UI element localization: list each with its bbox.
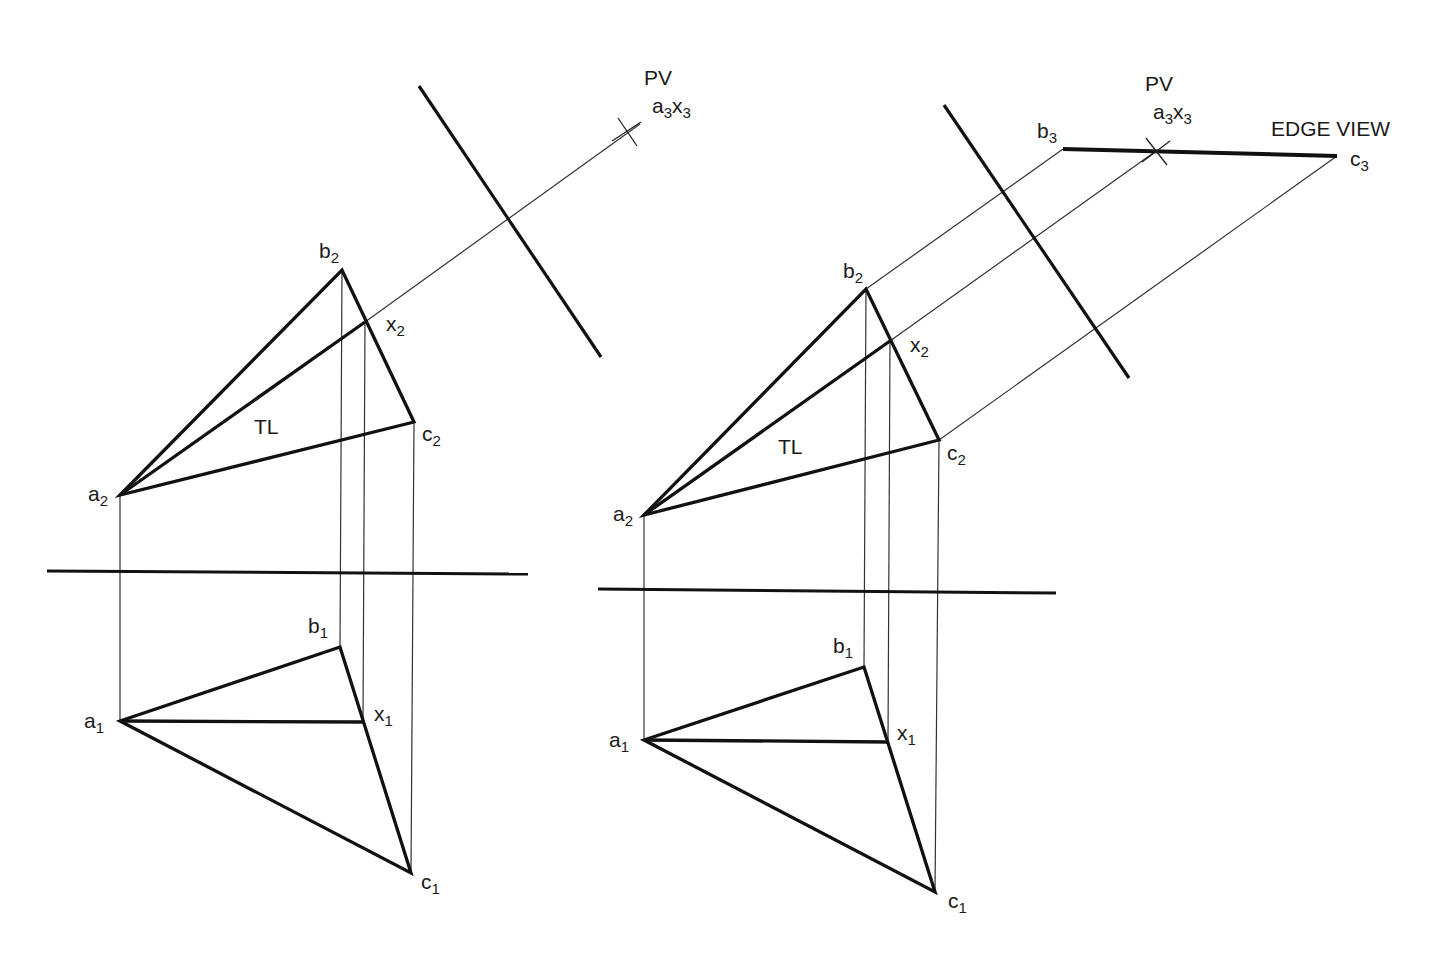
left-label-c2: c2 (422, 423, 441, 448)
left-label-b1: b1 (308, 615, 328, 640)
left-label-b2: b2 (319, 240, 339, 265)
right-figure (598, 105, 1337, 892)
right-label-b1: b1 (833, 635, 853, 660)
left-top-view-triangle (120, 647, 411, 873)
left-label-a1: a1 (84, 710, 104, 735)
right-label-x1: x1 (897, 722, 916, 747)
left-label-a3x3: a3x3 (652, 95, 691, 120)
right-label-c3: c3 (1350, 148, 1369, 173)
right-label-pv: PV (1145, 73, 1173, 94)
left-point-view-mark (612, 118, 641, 146)
right-fold-line-1-2 (598, 589, 1056, 593)
right-top-view-triangle (644, 667, 935, 892)
left-fold-line-2-3 (419, 86, 601, 357)
right-edge-view-line (1063, 149, 1337, 156)
right-label-a2: a2 (613, 503, 633, 528)
right-label-a3x3: a3x3 (1153, 101, 1192, 126)
left-label-x2: x2 (386, 313, 405, 338)
left-label-c1: c1 (421, 871, 440, 896)
right-front-view-triangle (644, 289, 939, 515)
right-label-x2: x2 (910, 334, 929, 359)
left-label-pv: PV (644, 67, 672, 88)
left-front-view-triangle (120, 270, 414, 495)
right-label-c2: c2 (947, 442, 966, 467)
left-label-a2: a2 (88, 483, 108, 508)
right-label-tl: TL (778, 436, 803, 457)
right-label-a1: a1 (609, 729, 629, 754)
right-label-b3: b3 (1037, 120, 1057, 145)
left-figure (47, 86, 641, 873)
right-projection-lines (644, 149, 1337, 892)
right-label-edge-view: EDGE VIEW (1271, 118, 1390, 139)
descriptive-geometry-drawing (0, 0, 1429, 963)
left-label-x1: x1 (374, 703, 393, 728)
right-fold-line-2-3 (944, 105, 1129, 378)
left-label-tl: TL (254, 416, 279, 437)
left-fold-line-1-2 (47, 571, 528, 574)
right-label-b2: b2 (843, 260, 863, 285)
right-label-c1: c1 (948, 890, 967, 915)
